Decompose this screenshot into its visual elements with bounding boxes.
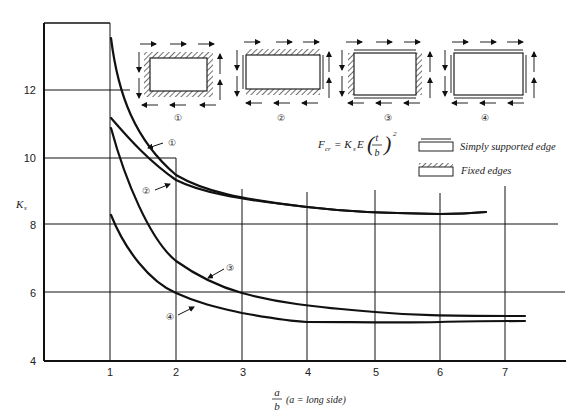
curve-3 xyxy=(111,128,525,316)
y-tick: 4 xyxy=(30,355,36,367)
svg-text:): ) xyxy=(382,131,391,156)
x-axis-label: a b (a = long side) xyxy=(272,386,346,412)
svg-text:④: ④ xyxy=(481,113,489,123)
svg-text:F: F xyxy=(317,138,325,150)
svg-text:(a = long side): (a = long side) xyxy=(286,394,346,406)
y-axis-label: K s xyxy=(15,198,27,212)
x-tick: 2 xyxy=(173,366,179,378)
formula: F cr = K s E ( t b ) 2 xyxy=(317,130,397,158)
plate-diagram-2: ② xyxy=(237,42,329,123)
svg-text:K: K xyxy=(15,198,24,210)
svg-text:a: a xyxy=(274,386,280,398)
x-tick: 5 xyxy=(373,366,379,378)
svg-text:t: t xyxy=(376,132,379,143)
plate-diagram-3: ③ xyxy=(342,42,430,123)
curve-callouts xyxy=(148,143,224,315)
svg-text:b: b xyxy=(274,400,280,412)
svg-text:s: s xyxy=(353,145,356,153)
curve-label-3: ③ xyxy=(226,263,234,273)
buckling-coefficient-chart: 4 6 8 10 12 1 2 3 4 5 6 7 K s a b (a = l… xyxy=(0,0,581,420)
x-tick: 4 xyxy=(305,366,311,378)
svg-text:2: 2 xyxy=(393,130,397,138)
y-tick: 6 xyxy=(30,287,36,299)
y-tick: 8 xyxy=(30,219,36,231)
svg-text:= K: = K xyxy=(334,138,352,150)
y-tick: 10 xyxy=(24,152,36,164)
legend-simply-supported: Simply supported edge xyxy=(419,139,556,152)
svg-text:Fixed edges: Fixed edges xyxy=(460,165,511,176)
svg-text:cr: cr xyxy=(325,145,331,153)
svg-text:①: ① xyxy=(174,113,182,123)
x-tick: 7 xyxy=(502,366,508,378)
plate-diagram-1: ① xyxy=(139,44,220,123)
svg-text:b: b xyxy=(375,147,380,158)
curve-label-1: ① xyxy=(168,138,176,148)
plate-diagram-4: ④ xyxy=(445,42,534,123)
curve-label-2: ② xyxy=(142,186,150,196)
legend: Simply supported edge Fixed edges xyxy=(419,139,556,176)
svg-text:②: ② xyxy=(277,113,285,123)
y-tick-labels: 4 6 8 10 12 xyxy=(24,84,36,367)
svg-text:Simply supported edge: Simply supported edge xyxy=(460,141,556,152)
svg-text:③: ③ xyxy=(384,113,392,123)
legend-fixed: Fixed edges xyxy=(419,163,511,176)
svg-text:E: E xyxy=(356,138,364,150)
x-tick: 6 xyxy=(437,366,443,378)
x-tick: 1 xyxy=(107,366,113,378)
curve-label-4: ④ xyxy=(166,312,174,322)
y-tick: 12 xyxy=(24,84,36,96)
svg-text:s: s xyxy=(24,204,27,212)
x-tick-labels: 1 2 3 4 5 6 7 xyxy=(107,366,508,378)
x-tick: 3 xyxy=(240,366,246,378)
